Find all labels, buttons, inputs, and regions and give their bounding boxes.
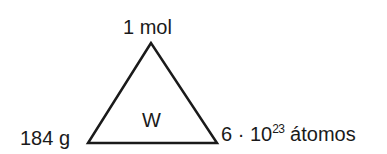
right-label-exponent: 23	[272, 122, 284, 136]
right-label-suffix: átomos	[285, 123, 356, 145]
right-label-prefix: 6 · 10	[221, 123, 272, 145]
mole-triangle-diagram: 1 mol W 184 g 6 · 1023 átomos	[0, 0, 387, 154]
left-label: 184 g	[20, 128, 70, 148]
top-label: 1 mol	[123, 17, 172, 37]
right-label: 6 · 1023 átomos	[221, 124, 356, 147]
center-label: W	[142, 110, 161, 130]
